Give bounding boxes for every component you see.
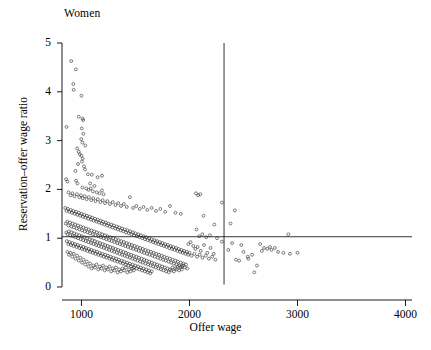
data-point xyxy=(122,203,125,206)
data-point xyxy=(87,265,90,268)
data-point xyxy=(260,249,263,252)
data-point xyxy=(116,271,119,274)
data-point xyxy=(193,252,196,255)
data-point xyxy=(80,94,83,97)
data-point xyxy=(76,182,79,185)
data-point xyxy=(96,198,99,201)
data-point xyxy=(159,257,162,260)
data-point xyxy=(83,230,86,233)
data-point xyxy=(101,174,104,177)
data-point xyxy=(119,270,122,273)
data-point xyxy=(135,205,138,208)
data-point xyxy=(116,242,119,245)
data-point xyxy=(113,269,116,272)
data-point xyxy=(75,193,78,196)
data-point xyxy=(186,267,189,270)
x-tick-label-2000: 2000 xyxy=(164,309,214,321)
scatter-plot-figure: Women Reservation–offer wage ratio Offer… xyxy=(0,0,431,350)
data-point xyxy=(101,189,104,192)
data-point xyxy=(79,256,82,259)
data-point xyxy=(85,260,88,263)
data-point xyxy=(201,256,204,259)
x-tick-label-1000: 1000 xyxy=(56,309,106,321)
data-point xyxy=(120,205,123,208)
y-axis-ticks xyxy=(57,43,62,287)
data-point xyxy=(94,266,97,269)
data-point xyxy=(229,222,232,225)
data-point xyxy=(97,268,100,271)
y-tick-label-2: 2 xyxy=(29,183,51,195)
data-point xyxy=(70,60,73,63)
data-point xyxy=(110,270,113,273)
data-point xyxy=(98,192,101,195)
data-point xyxy=(115,266,118,269)
data-point xyxy=(72,83,75,86)
data-point xyxy=(126,246,129,249)
data-point xyxy=(192,245,195,248)
data-point xyxy=(150,206,153,209)
data-point xyxy=(199,249,202,252)
data-point xyxy=(80,127,83,130)
data-point xyxy=(77,259,80,262)
data-point xyxy=(270,248,273,251)
data-point xyxy=(206,251,209,254)
data-point xyxy=(96,176,99,179)
y-tick-label-1: 1 xyxy=(29,232,51,244)
data-point xyxy=(99,236,102,239)
data-point xyxy=(273,247,276,250)
data-point xyxy=(214,258,217,261)
data-point xyxy=(92,264,95,267)
data-point xyxy=(238,259,241,262)
data-point xyxy=(205,236,208,239)
data-point xyxy=(247,257,250,260)
data-point xyxy=(233,209,236,212)
data-point xyxy=(132,269,135,272)
data-point xyxy=(74,169,77,172)
data-point xyxy=(216,237,219,240)
data-point xyxy=(246,255,249,258)
data-point xyxy=(164,210,167,213)
data-point xyxy=(89,187,92,190)
data-point xyxy=(78,196,81,199)
data-point xyxy=(82,132,85,135)
axes-group xyxy=(57,43,412,306)
data-point xyxy=(108,265,111,268)
data-point xyxy=(111,267,114,270)
data-point xyxy=(234,258,237,261)
data-point xyxy=(287,233,290,236)
data-point xyxy=(111,201,114,204)
data-point xyxy=(109,203,112,206)
data-point xyxy=(263,247,266,250)
data-point xyxy=(72,226,75,229)
data-points-group xyxy=(64,60,299,275)
data-point xyxy=(277,250,280,253)
y-tick-label-5: 5 xyxy=(29,37,51,49)
data-point xyxy=(153,255,156,258)
data-point xyxy=(102,193,105,196)
data-point xyxy=(91,190,94,193)
data-point xyxy=(92,197,95,200)
data-point xyxy=(128,196,131,199)
data-point xyxy=(72,252,75,255)
data-point xyxy=(78,228,81,231)
data-point xyxy=(106,200,109,203)
data-point xyxy=(142,206,145,209)
plot-canvas xyxy=(0,0,431,350)
data-point xyxy=(207,257,210,260)
data-point xyxy=(179,212,182,215)
data-point xyxy=(159,207,162,210)
data-point xyxy=(220,240,223,243)
data-point xyxy=(95,191,98,194)
data-point xyxy=(69,251,72,254)
data-point xyxy=(202,214,205,217)
data-point xyxy=(121,267,124,270)
data-point xyxy=(259,243,262,246)
data-point xyxy=(121,244,124,247)
data-point xyxy=(103,269,106,272)
data-point xyxy=(227,248,230,251)
data-point xyxy=(170,261,173,264)
data-point xyxy=(137,249,140,252)
data-point xyxy=(198,253,201,256)
data-point xyxy=(65,125,68,128)
data-point xyxy=(204,254,207,257)
